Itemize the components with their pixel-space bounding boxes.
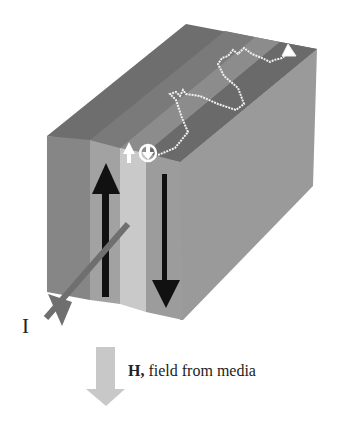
field-arrow <box>86 347 125 406</box>
field-caption: H, field from media <box>128 362 256 380</box>
field-symbol: H, <box>128 362 144 379</box>
current-label: I <box>22 314 29 339</box>
field-caption-text: field from media <box>148 362 256 379</box>
